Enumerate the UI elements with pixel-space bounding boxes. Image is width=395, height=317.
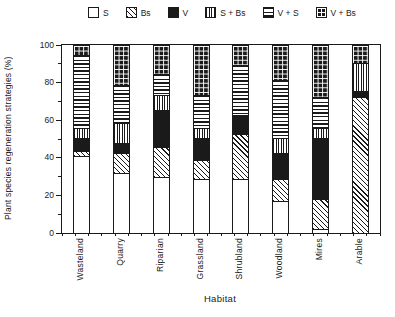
y-tick-label: 60 [28,115,54,125]
bar-segment-checker-grid [154,46,169,74]
bar-segment-plain-white [233,179,248,233]
bar-segment-solid-black [233,115,248,134]
bar-segment-vertical-stripes [353,63,368,91]
category-label: Riparian [155,238,165,272]
bar-arable [352,45,369,233]
y-axis-tick [56,82,61,83]
bar-segment-checker-grid [74,46,89,55]
x-axis-tick [327,233,328,236]
y-tick-label: 80 [28,77,54,87]
x-axis-tick [88,233,89,236]
category-label: Quarry [115,238,125,266]
y-tick-label: 0 [28,228,54,238]
bar-mires [312,45,329,233]
bar-wasteland [73,45,90,233]
bar-segment-solid-black [273,153,288,179]
bar-segment-diagonal-hatch [233,134,248,179]
bar-segment-solid-black [194,138,209,160]
bar-woodland [272,45,289,233]
legend-item: Bs [126,7,151,18]
y-axis-tick [56,195,61,196]
bar-segment-plain-white [74,156,89,233]
bar-segment-solid-black [114,143,129,152]
bar-segment-plain-white [273,201,288,233]
y-tick-label: 100 [28,40,54,50]
y-axis-tick [56,120,61,121]
y-axis-tick [56,157,61,158]
y-axis-minor-tick [58,139,61,140]
bar-segment-solid-black [313,138,328,200]
x-axis-tick [234,233,235,236]
x-axis-tick [101,233,102,236]
x-axis-tick [300,233,301,236]
legend-swatch-checker-grid [316,7,327,18]
legend-label: S + Bs [220,8,245,18]
bar-segment-horizontal-stripes [114,85,129,122]
x-axis-tick [260,233,261,236]
y-axis-title: Plant species regeneration strategies (%… [3,44,13,232]
bar-segment-checker-grid [353,46,368,63]
x-axis-tick [62,233,63,236]
plot-area [61,44,381,234]
bar-segment-checker-grid [313,46,328,96]
category-label: Woodland [274,238,284,279]
bar-quarry [113,45,130,233]
y-axis-tick [56,45,61,46]
bar-segment-diagonal-hatch [194,160,209,179]
bar-segment-vertical-stripes [273,138,288,153]
legend-swatch-vertical-stripes [205,7,216,18]
y-axis-minor-tick [58,63,61,64]
x-axis-tick [128,233,129,236]
bar-grassland [193,45,210,233]
bar-segment-checker-grid [233,46,248,65]
bar-segment-horizontal-stripes [313,97,328,129]
legend-item: S + Bs [205,7,245,18]
y-axis-tick [56,233,61,234]
legend-label: Bs [141,8,151,18]
x-axis-tick [353,233,354,236]
x-axis-tick [168,233,169,236]
y-tick-label: 20 [28,190,54,200]
x-axis-tick [207,233,208,236]
bar-segment-solid-black [74,138,89,151]
bar-segment-plain-white [194,179,209,233]
bar-segment-vertical-stripes [74,128,89,137]
bar-segment-solid-black [154,110,169,147]
x-axis-tick [287,233,288,236]
legend-swatch-plain-white [88,7,99,18]
x-axis-tick [366,233,367,236]
legend-label: S [103,8,109,18]
x-axis-tick [221,233,222,236]
legend-item: V [168,7,189,18]
x-axis-tick [340,233,341,236]
legend-swatch-solid-black [168,7,179,18]
bar-segment-vertical-stripes [154,95,169,110]
bar-segment-diagonal-hatch [154,147,169,177]
x-axis-tick [75,233,76,236]
category-label: Grassland [195,238,205,279]
bar-segment-diagonal-hatch [273,179,288,201]
bar-segment-plain-white [154,177,169,233]
x-axis-tick [181,233,182,236]
x-axis-tick [313,233,314,236]
bar-segment-horizontal-stripes [154,74,169,95]
bar-segment-vertical-stripes [114,123,129,144]
x-axis-tick [194,233,195,236]
y-axis-minor-tick [58,101,61,102]
y-tick-label: 40 [28,152,54,162]
bar-segment-diagonal-hatch [114,153,129,174]
x-axis-tick [380,233,381,236]
legend-swatch-diagonal-hatch [126,7,137,18]
bar-segment-plain-white [114,173,129,233]
x-axis-tick [154,233,155,236]
bar-segment-horizontal-stripes [273,80,288,138]
category-label: Arable [354,238,364,264]
bar-riparian [153,45,170,233]
legend-item: S [88,7,109,18]
y-axis-minor-tick [58,214,61,215]
legend-label: V + Bs [331,8,356,18]
legend-label: V + S [278,8,299,18]
bar-segment-diagonal-hatch [353,97,368,234]
stacked-bar-chart-figure: SBsVS + BsV + SV + Bs Plant species rege… [0,0,395,317]
x-axis-tick [247,233,248,236]
